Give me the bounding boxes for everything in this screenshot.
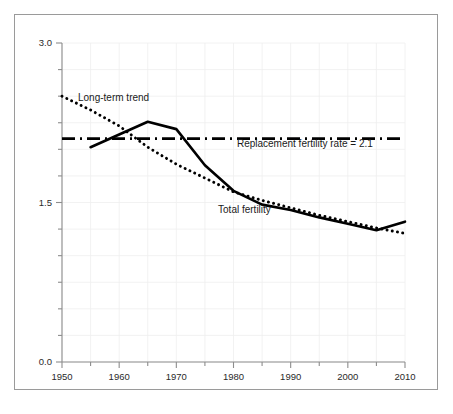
- x-axis-ticks: [62, 362, 405, 368]
- x-axis-tick-label: 1950: [51, 371, 72, 382]
- y-axis-tick-label: 3.0: [39, 37, 52, 48]
- y-axis-tick-label: 0.0: [39, 356, 52, 367]
- y-axis-tick-label: 1.5: [39, 197, 52, 208]
- x-axis-tick-label: 1970: [166, 371, 187, 382]
- annotation-long-term-trend: Long-term trend: [78, 92, 149, 103]
- x-axis-tick-label: 2000: [337, 371, 358, 382]
- figure-root: 0.01.53.0 1950196019701980199020002010 L…: [0, 0, 453, 414]
- y-axis-ticks: [56, 43, 62, 362]
- x-axis-tick-labels: 1950196019701980199020002010: [51, 371, 415, 382]
- x-axis-tick-label: 2010: [394, 371, 415, 382]
- y-axis-tick-labels: 0.01.53.0: [39, 37, 52, 367]
- fertility-line-chart: 0.01.53.0 1950196019701980199020002010 L…: [0, 0, 453, 414]
- x-axis-tick-label: 1980: [223, 371, 244, 382]
- annotation-replacement-fertility-rate: Replacement fertility rate = 2.1: [237, 138, 373, 149]
- grid-lines: [62, 43, 405, 362]
- x-axis-tick-label: 1990: [280, 371, 301, 382]
- annotation-total-fertility: Total fertility: [218, 204, 271, 215]
- chart-annotations: Long-term trend Replacement fertility ra…: [78, 92, 373, 215]
- x-axis-tick-label: 1960: [109, 371, 130, 382]
